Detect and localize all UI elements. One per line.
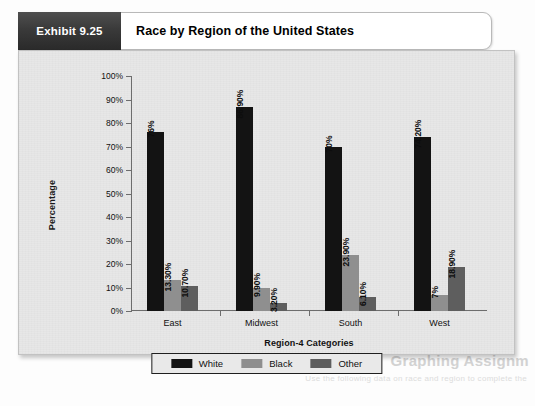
x-axis-tick — [398, 311, 399, 316]
y-axis-tick — [126, 100, 131, 101]
plot-area: 0%10%20%30%40%50%60%70%80%90%100%76%13.3… — [131, 76, 487, 311]
bar-value-label: 76% — [146, 121, 156, 138]
legend-label: Other — [338, 358, 362, 369]
legend-label: White — [199, 358, 223, 369]
bar-value-label: 74.20% — [413, 119, 423, 148]
bar-group: 86.90%9.90%3.20%Midwest — [236, 76, 287, 311]
y-axis-tick — [126, 217, 131, 218]
bar-value-label: 86.90% — [235, 89, 245, 118]
bar-value-label: 9.90% — [252, 273, 262, 297]
x-axis-title: Region-4 Categories — [131, 338, 487, 348]
y-axis-tick — [126, 264, 131, 265]
y-axis-tick-label: 0% — [111, 306, 123, 316]
x-axis-category-label: West — [429, 318, 449, 328]
bar-value-label: 10.70% — [180, 268, 190, 297]
y-axis-tick — [126, 147, 131, 148]
x-axis-tick — [220, 311, 221, 316]
y-axis-tick-label: 70% — [106, 142, 123, 152]
y-axis-tick — [126, 194, 131, 195]
y-axis-tick-label: 10% — [106, 283, 123, 293]
bar: 23.90% — [342, 255, 359, 311]
bar: 18.90% — [448, 267, 465, 311]
y-axis-tick — [126, 241, 131, 242]
y-axis-tick — [126, 76, 131, 77]
legend-label: Black — [269, 358, 292, 369]
bar-group: 70%23.90%6.10%South — [325, 76, 376, 311]
exhibit-title: Race by Region of the United States — [136, 12, 354, 50]
y-axis-tick-label: 50% — [106, 189, 123, 199]
x-axis-category-label: Midwest — [245, 318, 278, 328]
bar-value-label: 3.20% — [269, 288, 279, 312]
y-axis-tick-label: 60% — [106, 165, 123, 175]
legend-item: White — [171, 358, 223, 369]
legend-swatch — [241, 359, 262, 368]
bar: 7% — [431, 295, 448, 311]
bar-value-label: 6.10% — [358, 282, 368, 306]
bar: 10.70% — [181, 286, 198, 311]
bar-value-label: 13.30% — [163, 262, 173, 291]
y-axis-title: Percentage — [47, 145, 57, 265]
x-axis-tick — [309, 311, 310, 316]
legend-swatch — [310, 359, 331, 368]
y-axis-tick-label: 20% — [106, 259, 123, 269]
bar-value-label: 23.90% — [341, 237, 351, 266]
y-axis-tick-label: 100% — [101, 71, 123, 81]
bar: 3.20% — [270, 303, 287, 311]
y-axis-tick — [126, 288, 131, 289]
y-axis-tick — [126, 311, 131, 312]
background-bleed-subtext: Use the following data on race and regio… — [305, 374, 527, 383]
bar: 86.90% — [236, 107, 253, 311]
bar: 76% — [147, 132, 164, 311]
y-axis-tick-label: 30% — [106, 236, 123, 246]
y-axis-tick — [126, 123, 131, 124]
bar: 13.30% — [164, 280, 181, 311]
exhibit-number-tab: Exhibit 9.25 — [18, 12, 121, 50]
bar: 9.90% — [253, 288, 270, 311]
x-axis-category-label: South — [339, 318, 363, 328]
y-axis-tick-label: 80% — [106, 118, 123, 128]
bar-group: 74.20%7%18.90%West — [414, 76, 465, 311]
chart-legend: WhiteBlackOther — [151, 353, 382, 374]
bar-chart: Percentage 0%10%20%30%40%50%60%70%80%90%… — [18, 50, 515, 355]
bar: 70% — [325, 147, 342, 312]
bar-group: 76%13.30%10.70%East — [147, 76, 198, 311]
bar-value-label: 70% — [324, 135, 334, 152]
bar-value-label: 7% — [430, 285, 440, 297]
x-axis-category-label: East — [163, 318, 181, 328]
exhibit-figure: Graphing Assignm Use the following data … — [0, 0, 535, 406]
bar-value-label: 18.90% — [447, 249, 457, 278]
bar: 74.20% — [414, 137, 431, 311]
bar: 6.10% — [359, 297, 376, 311]
y-axis-tick-label: 90% — [106, 95, 123, 105]
y-axis-line — [131, 76, 132, 312]
y-axis-tick-label: 40% — [106, 212, 123, 222]
legend-item: Other — [310, 358, 362, 369]
y-axis-tick — [126, 170, 131, 171]
legend-swatch — [171, 359, 192, 368]
legend-item: Black — [241, 358, 292, 369]
